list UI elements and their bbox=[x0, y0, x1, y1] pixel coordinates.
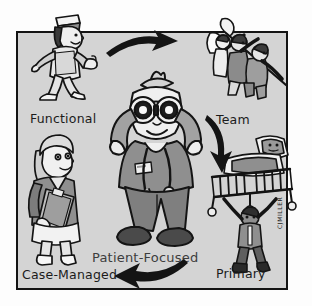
illustration-canvas: Functional bbox=[0, 0, 312, 306]
label-functional: Functional bbox=[30, 113, 96, 126]
label-case-managed: Case-Managed bbox=[22, 269, 117, 282]
figure-patient-focused bbox=[91, 65, 221, 261]
figure-case-managed bbox=[16, 125, 102, 267]
label-primary: Primary bbox=[216, 268, 266, 281]
diagram-frame: Functional bbox=[16, 31, 288, 290]
arrow-team-to-primary bbox=[204, 113, 238, 175]
arrow-primary-to-case-managed bbox=[108, 259, 190, 295]
arrow-functional-to-team bbox=[104, 29, 180, 63]
artist-signature: CJMILLER bbox=[276, 197, 283, 229]
